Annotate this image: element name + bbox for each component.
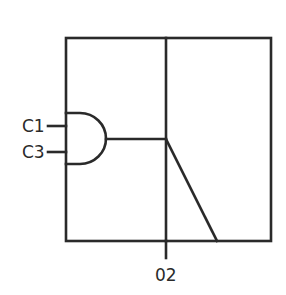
- input-c1-label: C1: [22, 116, 45, 136]
- outer-box: [66, 38, 271, 241]
- input-c3-label: C3: [22, 142, 45, 162]
- and-gate-icon: [66, 113, 106, 164]
- logic-diagram: C1 C3 02: [0, 0, 286, 295]
- output-02-label: 02: [155, 265, 177, 285]
- ramp-line: [166, 139, 217, 241]
